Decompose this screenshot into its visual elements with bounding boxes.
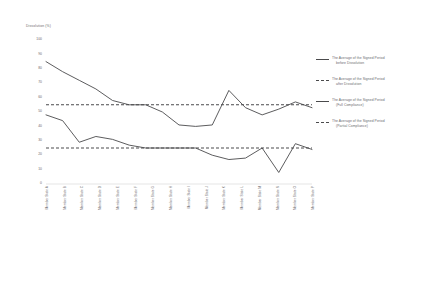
x-axis-tick-label: Member State O <box>294 186 297 210</box>
legend-label: before Dissolution <box>332 61 440 66</box>
x-axis-tick-label: Member State A <box>46 186 49 210</box>
x-axis-tick-label: Member State K <box>223 186 226 210</box>
legend-swatch-dashed-icon <box>316 122 329 123</box>
y-axis-tick-label: 40 <box>38 125 42 128</box>
x-axis-tick-label: Member State L <box>241 186 244 209</box>
y-axis-tick-label: 50 <box>38 110 42 113</box>
plot-area <box>46 40 312 184</box>
y-axis-tick-label: 90 <box>38 53 42 56</box>
data-series-line <box>46 62 312 127</box>
x-axis-tick-label: Member State D <box>99 186 102 210</box>
y-axis-tick-label: 60 <box>38 96 42 99</box>
x-axis-tick-label: Member State J <box>206 186 209 209</box>
legend-entry: The Average of the Signed Periodafter Di… <box>316 77 440 88</box>
x-axis-tick-label: Member State H <box>170 186 173 210</box>
x-axis-tick-label: Member State B <box>64 186 67 210</box>
y-axis-tick-label: 20 <box>38 153 42 156</box>
x-axis-tick-label: Member State C <box>81 186 84 210</box>
y-axis-tick-label: 30 <box>38 139 42 142</box>
chart-legend: The Average of the Signed Periodbefore D… <box>316 56 440 140</box>
x-axis-tick-label: Member State N <box>277 186 280 210</box>
legend-entry: The Average of the Signed Period(Full Co… <box>316 98 440 109</box>
data-series-line <box>46 115 312 173</box>
legend-swatch-dashed-icon <box>316 80 329 81</box>
legend-entry: The Average of the Signed Periodbefore D… <box>316 56 440 67</box>
plot-svg <box>46 40 312 184</box>
x-axis-tick-label: Member State E <box>117 186 120 210</box>
y-axis-tick-label: 100 <box>36 38 42 41</box>
legend-entry: The Average of the Signed Period(Partial… <box>316 119 440 130</box>
x-axis-tick-label: Member State F <box>135 186 138 210</box>
y-axis-tick-labels: 0102030405060708090100 <box>22 0 42 282</box>
x-axis-tick-label: Member State I <box>188 186 191 209</box>
y-axis-tick-label: 70 <box>38 81 42 84</box>
x-axis-tick-label: Member State G <box>152 186 155 210</box>
legend-label: (Partial Compliance) <box>332 124 440 129</box>
line-chart: Dissolution (%) 0102030405060708090100 M… <box>0 0 440 282</box>
x-axis-tick-labels: Member State AMember State BMember State… <box>46 186 312 282</box>
legend-label: after Dissolution <box>332 82 440 87</box>
legend-label: (Full Compliance) <box>332 103 440 108</box>
legend-swatch-solid-icon <box>316 101 329 102</box>
x-axis-tick-label: Member State P <box>312 186 315 210</box>
x-axis-tick-label: Member State M <box>259 186 262 210</box>
y-axis-tick-label: 80 <box>38 67 42 70</box>
y-axis-tick-label: 0 <box>40 182 42 185</box>
y-axis-tick-label: 10 <box>38 168 42 171</box>
legend-swatch-solid-icon <box>316 59 329 60</box>
